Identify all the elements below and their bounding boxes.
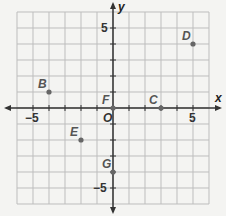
y-tick-label: −5 (93, 181, 107, 195)
point-c (158, 105, 163, 110)
y-axis-up-arrow-icon (110, 2, 116, 9)
coordinate-plane: xy−555−5OBDFCEG (0, 0, 226, 216)
point-label-b: B (38, 77, 47, 91)
x-axis-left-arrow-icon (4, 105, 11, 111)
x-tick-label: 5 (189, 111, 196, 125)
x-axis-label: x (214, 91, 223, 105)
origin-label: O (103, 111, 113, 125)
point-label-f: F (102, 93, 110, 107)
point-label-g: G (102, 157, 111, 171)
point-label-e: E (70, 125, 79, 139)
point-d (190, 41, 195, 46)
point-e (78, 137, 83, 142)
point-b (46, 89, 51, 94)
x-tick-label: −5 (25, 111, 39, 125)
x-axis-right-arrow-icon (215, 105, 222, 111)
y-tick-label: 5 (101, 21, 108, 35)
point-f (110, 105, 115, 110)
point-label-c: C (149, 93, 158, 107)
y-axis-down-arrow-icon (110, 207, 116, 214)
point-label-d: D (182, 29, 191, 43)
y-axis-label: y (117, 0, 126, 14)
